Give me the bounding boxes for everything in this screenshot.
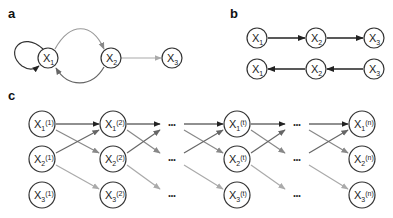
node-x1-1: X1(1) <box>29 111 55 137</box>
node-row1-x2: X2 <box>306 28 326 48</box>
ellipsis-dots: ••• <box>293 121 301 128</box>
node-row1-x3: X3 <box>364 28 384 48</box>
ellipsis-dots: ••• <box>293 192 301 199</box>
node-x3: X3 <box>162 48 182 68</box>
node-x2-n: X2(n) <box>349 146 375 172</box>
node-x1-n: X1(n) <box>349 111 375 137</box>
node-x1-t: X1(t) <box>224 111 250 137</box>
transition-edge <box>184 165 223 189</box>
node-row2-x3: X3 <box>364 59 384 79</box>
node-row2-x2: X2 <box>306 59 326 79</box>
node-row2-x1: X1 <box>247 59 267 79</box>
node-x2-2: X2(2) <box>100 146 126 172</box>
node-x3-1: X3(1) <box>29 182 55 208</box>
node-x3-t: X3(t) <box>224 182 250 208</box>
ellipsis-dots: ••• <box>168 121 176 128</box>
transition-edge <box>127 165 160 189</box>
node-x2-1: X2(1) <box>29 146 55 172</box>
transition-edge <box>56 165 99 189</box>
panel-a-edges <box>15 29 161 83</box>
panel-b-nodes: X1X2X3X1X2X3 <box>247 28 384 79</box>
ellipsis-dots: ••• <box>168 192 176 199</box>
node-x1: X1 <box>38 48 58 68</box>
node-x2-t: X2(t) <box>224 146 250 172</box>
transition-edge <box>309 165 348 189</box>
edge-x2-to-x1 <box>56 67 104 83</box>
ellipsis-dots: ••• <box>293 156 301 163</box>
panel-c-unrolled-network: X1(1)X2(1)X3(1)X1(2)X2(2)X3(2)•••••••••X… <box>29 111 375 208</box>
node-x1-2: X1(2) <box>100 111 126 137</box>
node-x2: X2 <box>101 48 121 68</box>
diagram-canvas: X1X2X3 X1X2X3X1X2X3 X1(1)X2(1)X3(1)X1(2)… <box>0 0 393 218</box>
node-x3-n: X3(n) <box>349 182 375 208</box>
transition-edge <box>251 165 285 189</box>
edge-x1-to-x2 <box>55 29 104 49</box>
node-row1-x1: X1 <box>247 28 267 48</box>
ellipsis-dots: ••• <box>168 156 176 163</box>
node-x3-2: X3(2) <box>100 182 126 208</box>
